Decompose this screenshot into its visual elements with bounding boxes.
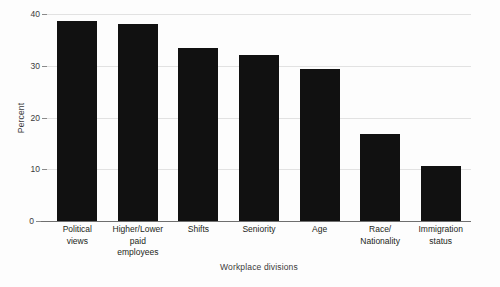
bar [421, 166, 461, 221]
x-axis-tick-label: Immigration status [407, 224, 474, 247]
y-axis-tick-label: 10 [31, 164, 40, 174]
x-axis-tick-label: Race/ Nationality [347, 224, 414, 247]
y-axis-tick-label: 40 [31, 9, 40, 19]
x-axis-tick-label: Age [286, 224, 353, 236]
bar-series [47, 14, 471, 221]
bar [300, 69, 340, 221]
plot-area: 010203040 [47, 14, 471, 221]
x-axis-tick-label: Seniority [226, 224, 293, 236]
y-axis-tick-label: 0 [29, 216, 34, 226]
bar [239, 55, 279, 221]
y-axis-tick-label: 30 [31, 61, 40, 71]
x-axis-tick-label: Political views [44, 224, 111, 247]
bar [118, 24, 158, 221]
x-axis-tick-labels: Political viewsHigher/Lower paid employe… [47, 224, 471, 264]
bar [360, 134, 400, 221]
y-axis-title: Percent [14, 8, 28, 228]
axis-baseline: 0 [41, 221, 471, 222]
x-axis-tick-label: Shifts [165, 224, 232, 236]
y-axis-tick-label: 20 [31, 113, 40, 123]
y-axis-tick-mark [36, 221, 41, 222]
x-axis-tick-label: Higher/Lower paid employees [105, 224, 172, 259]
bar-chart: Percent 010203040 Political viewsHigher/… [0, 0, 500, 287]
bar [57, 21, 97, 221]
x-axis-title: Workplace divisions [47, 262, 471, 272]
bar [178, 48, 218, 221]
